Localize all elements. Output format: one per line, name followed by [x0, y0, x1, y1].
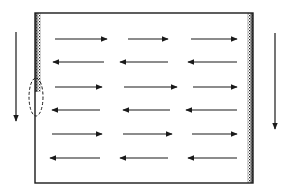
flow-diagram [0, 0, 284, 194]
flow-arrows [50, 39, 237, 158]
external-arrows [16, 32, 275, 129]
